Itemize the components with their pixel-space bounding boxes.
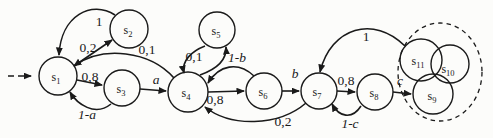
node-label-s4: s4 [182, 87, 191, 99]
node-label-s2: s2 [124, 24, 133, 36]
edge-label-s6-s4: 1-b [228, 51, 246, 65]
node-label-s7: s7 [313, 86, 322, 98]
edge-s3-s4 [140, 89, 166, 91]
node-label-s11: s11 [412, 55, 425, 67]
edge-s4-s5 [200, 47, 226, 75]
edge-label-s4-s1: 0,1 [139, 43, 156, 57]
node-label-s10: s10 [441, 63, 454, 75]
edge-label-s11-s7: 1 [363, 30, 370, 44]
edge-label-s8-s7: 1-c [341, 117, 358, 131]
edge-label-s2-s1: 1 [96, 15, 103, 29]
node-label-s8: s8 [370, 87, 379, 99]
edge-label-s3-s1: 1-a [78, 108, 96, 122]
edge-label-s3-s4: a [153, 73, 160, 87]
edge-label-s4-s5: 0,1 [186, 50, 203, 64]
node-label-s9: s9 [428, 90, 437, 102]
node-label-s5: s5 [212, 25, 221, 37]
edge-s7-s8 [337, 91, 355, 92]
node-label-s3: s3 [117, 83, 126, 95]
node-label-s6: s6 [259, 86, 268, 98]
edge-label-s7-s4: 0,2 [275, 115, 292, 129]
edge-label-s4-s6: 0,8 [207, 93, 224, 107]
cluster-dashed-ellipse [398, 23, 482, 121]
edge-s6-s4 [208, 67, 254, 83]
edge-s8-s9 [393, 92, 411, 94]
edge-label-s1-s3: 0,8 [82, 70, 99, 84]
edge-label-s7-s8: 0,8 [338, 74, 355, 88]
node-label-s1: s1 [52, 71, 61, 83]
edge-s8-s7 [332, 104, 361, 115]
edge-label-s8-s9: c [397, 74, 403, 88]
edge-label-s6-s7: b [292, 67, 299, 81]
state-diagram-figure: s1 s2 s3 s4 s5 s6 s7 s8 s9 s10 s11 0,2 1… [0, 0, 493, 138]
edge-label-s1-s2: 0,2 [80, 41, 97, 55]
